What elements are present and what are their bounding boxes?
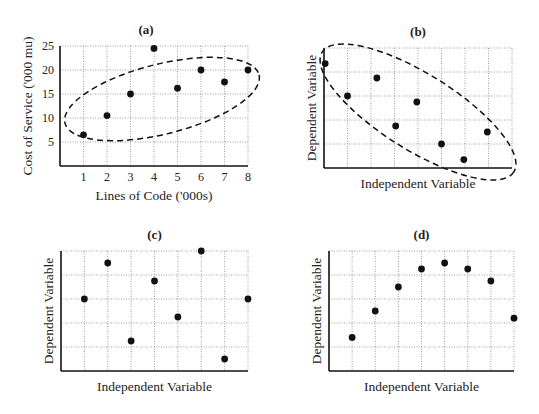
data-point <box>245 296 252 303</box>
data-point <box>80 131 87 138</box>
data-point <box>487 278 494 285</box>
data-point <box>245 67 252 74</box>
y-tick-label: 20 <box>42 63 54 77</box>
x-tick-label: 7 <box>222 170 228 184</box>
chart-d-curvilinear: (d)Independent VariableDependent Variabl… <box>309 227 517 394</box>
data-point <box>511 315 518 322</box>
data-point <box>413 99 420 106</box>
data-point <box>418 266 425 273</box>
data-point <box>198 248 205 255</box>
data-point <box>81 296 88 303</box>
x-axis-label: Independent Variable <box>97 379 212 394</box>
x-tick-label: 4 <box>151 170 157 184</box>
data-point <box>127 91 134 98</box>
y-axis-label: Dependent Variable <box>304 55 319 162</box>
y-tick-label: 15 <box>42 87 54 101</box>
data-point <box>349 334 356 341</box>
chart-c-no-correlation: (c)Independent VariableDependent Variabl… <box>41 227 251 394</box>
chart-title: (b) <box>410 24 426 39</box>
data-point <box>344 93 351 100</box>
data-point <box>104 112 111 119</box>
data-point <box>151 278 158 285</box>
x-tick-label: 1 <box>81 170 87 184</box>
y-tick-label: 25 <box>42 39 54 53</box>
x-tick-label: 5 <box>175 170 181 184</box>
data-point <box>372 308 379 315</box>
x-axis-label: Independent Variable <box>364 379 479 394</box>
y-axis-label: Cost of Service ('000 mu) <box>20 37 35 176</box>
data-point <box>438 141 445 148</box>
data-point <box>373 75 380 82</box>
x-axis-label: Independent Variable <box>361 176 476 191</box>
data-point <box>221 79 228 86</box>
chart-b-negative-correlation: (b)Independent VariableDependent Variabl… <box>302 20 534 204</box>
chart-a-positive-correlation: (a)12345678510152025Lines of Code ('000s… <box>20 22 267 203</box>
grouping-ellipse <box>57 41 268 157</box>
data-point <box>198 67 205 74</box>
x-tick-label: 6 <box>198 170 204 184</box>
x-axis-label: Lines of Code ('000s) <box>96 188 213 203</box>
data-point <box>395 284 402 291</box>
x-tick-label: 2 <box>104 170 110 184</box>
data-point <box>174 85 181 92</box>
data-point <box>484 129 491 136</box>
y-axis-label: Dependent Variable <box>309 258 324 365</box>
data-point <box>174 314 181 321</box>
y-tick-label: 10 <box>42 111 54 125</box>
data-point <box>104 260 111 267</box>
data-point <box>128 338 135 345</box>
data-point <box>151 45 158 52</box>
data-point <box>464 266 471 273</box>
y-axis-label: Dependent Variable <box>41 258 56 365</box>
x-tick-label: 3 <box>128 170 134 184</box>
data-point <box>392 123 399 130</box>
chart-title: (c) <box>147 227 161 242</box>
data-point <box>460 156 467 163</box>
chart-title: (a) <box>138 22 153 37</box>
data-point <box>441 260 448 267</box>
chart-title: (d) <box>414 227 430 242</box>
data-point <box>322 60 329 67</box>
data-point <box>221 356 228 363</box>
x-tick-label: 8 <box>245 170 251 184</box>
y-tick-label: 5 <box>48 135 54 149</box>
scatter-figure: (a)12345678510152025Lines of Code ('000s… <box>0 0 539 414</box>
